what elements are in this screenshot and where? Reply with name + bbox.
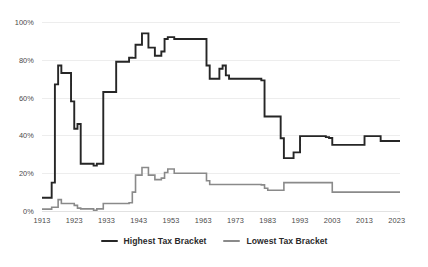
series-lines — [42, 22, 400, 211]
tax-bracket-line-chart: 0%20%40%60%80%100% 191319231933194319531… — [0, 0, 428, 267]
y-axis-tick-label: 60% — [0, 93, 34, 102]
legend-swatch-icon — [101, 240, 118, 242]
plot-area — [42, 22, 400, 211]
y-axis-tick-label: 80% — [0, 55, 34, 64]
x-axis-tick-label: 2023 — [377, 216, 417, 225]
legend-item-0[interactable]: Highest Tax Bracket — [101, 236, 207, 246]
y-axis-tick-label: 20% — [0, 169, 34, 178]
y-axis-tick-label: 0% — [0, 207, 34, 216]
legend-label: Highest Tax Bracket — [124, 236, 207, 246]
y-axis-tick-label: 40% — [0, 131, 34, 140]
legend-label: Lowest Tax Bracket — [246, 236, 327, 246]
legend-item-1[interactable]: Lowest Tax Bracket — [223, 236, 327, 246]
series-line-highest-tax-bracket — [42, 33, 400, 197]
series-line-lowest-tax-bracket — [42, 168, 400, 211]
legend-swatch-icon — [223, 240, 240, 242]
gridline-0 — [42, 211, 400, 212]
y-axis-tick-label: 100% — [0, 18, 34, 27]
chart-legend: Highest Tax BracketLowest Tax Bracket — [0, 236, 428, 246]
